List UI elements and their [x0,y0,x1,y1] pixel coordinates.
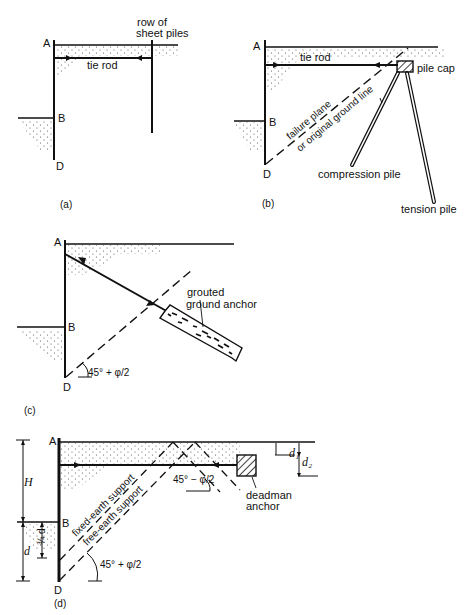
caption-c: (c) [24,405,36,416]
backfill-soil [55,46,179,56]
caption-b: (b) [262,198,274,209]
point-b: B [68,321,75,333]
label-ground-anchor: ground anchor [186,298,257,310]
point-b: B [58,112,65,124]
point-a: A [54,236,62,248]
point-d: D [56,160,64,172]
point-d: D [54,584,62,596]
label-angle: 45° + φ/2 [88,367,130,378]
point-d: D [263,168,271,180]
caption-d: (d) [54,598,66,609]
label-sheet-piles: sheet piles [136,27,189,39]
label-grouted: grouted [187,286,224,298]
tendon [65,254,170,313]
label-h: H [23,475,34,489]
label-d1: d₁ [289,446,299,460]
point-d: D [63,381,71,393]
backfill-soil [266,57,300,90]
passive-soil [18,330,63,360]
arrow-icon [373,62,380,68]
caption-a: (a) [60,199,72,210]
backfill-soil [266,48,446,57]
passive-soil [234,122,264,150]
point-b: B [62,517,69,529]
passive-soil [18,120,53,150]
panel-c: A B D grouted ground anchor 45° + φ/2 (c… [17,236,257,416]
point-a: A [49,435,57,447]
backfill-soil [66,245,161,254]
label-d: d [24,544,31,558]
label-angle-minus: 45° − φ/2 [173,474,215,485]
angle-arc [87,553,98,581]
pile-cap [397,61,413,72]
point-a: A [43,37,51,49]
label-tension-pile: tension pile [401,203,457,215]
panel-a: A B D row of sheet piles tie rod (a) [18,16,189,210]
label-tie-rod: tie rod [87,59,118,71]
panel-d: A B D H d ¾ d d₁ d₂ fixed-earth support … [16,435,318,609]
deadman-anchor [237,455,256,476]
point-a: A [253,40,261,52]
label-pile-cap: pile cap [417,62,455,74]
backfill-soil [66,254,120,275]
label-angle-plus: 45° + φ/2 [100,559,142,570]
panel-b: A B D tie rod pile cap failure plane or … [234,40,457,215]
label-anchor: anchor [246,500,280,512]
label-tie-rod: tie rod [300,51,331,63]
point-b: B [269,116,276,128]
label-d2: d₂ [302,455,312,469]
label-three-quarter-d: ¾ d [36,528,47,545]
anchored-sheet-pile-diagram: A B D row of sheet piles tie rod (a) A B… [0,0,468,615]
label-compression-pile: compression pile [318,168,401,180]
backfill-soil [60,465,110,490]
